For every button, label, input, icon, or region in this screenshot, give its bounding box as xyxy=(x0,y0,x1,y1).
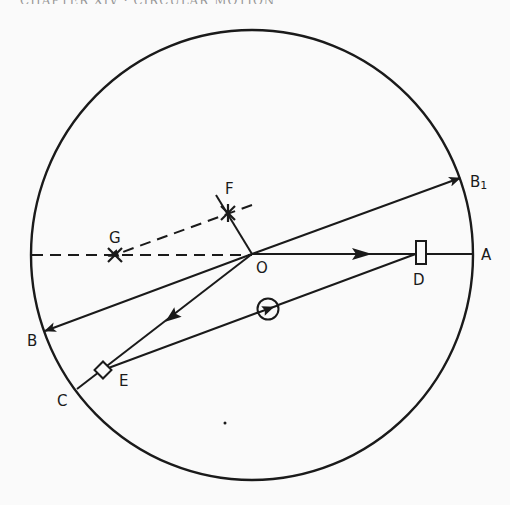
line-ob1 xyxy=(252,178,460,254)
label-f: F xyxy=(225,180,234,198)
label-d: D xyxy=(413,271,425,289)
label-a: A xyxy=(481,246,492,264)
label-o: O xyxy=(256,259,268,277)
label-c: C xyxy=(57,392,67,410)
circular-motion-diagram: O A B B1 C D E F G xyxy=(0,0,510,505)
label-e: E xyxy=(119,372,128,390)
small-dot xyxy=(224,422,227,425)
label-b1-subscript: 1 xyxy=(480,179,487,192)
label-b1-main: B xyxy=(470,173,480,191)
label-b: B xyxy=(27,332,37,350)
label-g: G xyxy=(109,229,121,247)
line-ob xyxy=(45,254,252,331)
line-of xyxy=(216,195,252,254)
label-b1: B1 xyxy=(470,173,487,192)
block-d xyxy=(416,241,426,264)
dashed-line-fg xyxy=(120,205,252,253)
